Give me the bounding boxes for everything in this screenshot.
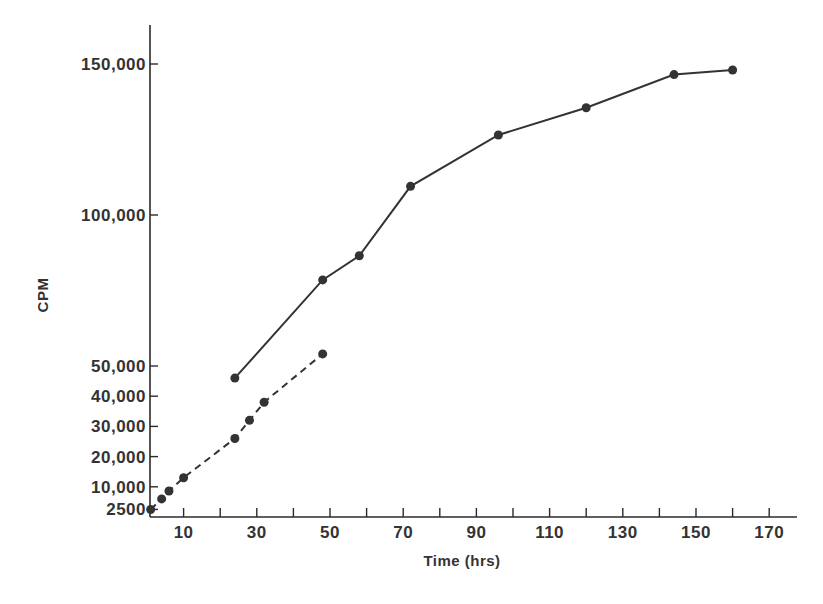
x-tick-label: 70	[393, 523, 413, 542]
data-point-marker	[318, 275, 327, 284]
x-tick-label: 30	[247, 523, 267, 542]
data-point-marker	[230, 374, 239, 383]
data-point-marker	[355, 251, 364, 260]
x-axis-title: Time (hrs)	[423, 552, 500, 569]
data-point-marker	[728, 66, 737, 75]
axes	[150, 25, 797, 517]
y-tick-label: 40,000	[91, 387, 146, 406]
y-tick-label: 20,000	[91, 448, 146, 467]
y-tick-label: 150,000	[81, 55, 146, 74]
y-tick-label: 30,000	[91, 417, 146, 436]
cpm-vs-time-chart: 1030507090110130150170 250010,00020,0003…	[0, 0, 823, 604]
data-point-marker	[318, 349, 327, 358]
data-point-marker	[179, 473, 188, 482]
data-point-marker	[494, 130, 503, 139]
data-point-marker	[157, 494, 166, 503]
data-point-marker	[582, 103, 591, 112]
y-axis-title: CPM	[34, 278, 51, 313]
x-tick-label: 50	[320, 523, 340, 542]
y-tick-label: 2500	[106, 500, 146, 519]
data-point-marker	[260, 398, 269, 407]
x-tick-label: 90	[466, 523, 486, 542]
data-series	[146, 66, 737, 514]
x-tick-label: 150	[681, 523, 711, 542]
data-point-marker	[230, 434, 239, 443]
series-solid	[230, 66, 737, 383]
y-tick-label: 50,000	[91, 357, 146, 376]
series-line-solid	[235, 70, 733, 378]
y-tick-label: 10,000	[91, 478, 146, 497]
data-point-marker	[164, 487, 173, 496]
x-axis-ticks: 1030507090110130150170	[174, 508, 784, 542]
x-tick-label: 10	[174, 523, 194, 542]
y-axis-ticks: 250010,00020,00030,00040,00050,000100,00…	[81, 55, 158, 519]
x-tick-label: 110	[535, 523, 564, 542]
x-tick-label: 130	[608, 523, 638, 542]
data-point-marker	[406, 182, 415, 191]
x-tick-label: 170	[754, 523, 784, 542]
y-tick-label: 100,000	[81, 206, 146, 225]
data-point-marker	[245, 416, 254, 425]
data-point-marker	[146, 505, 155, 514]
data-point-marker	[670, 70, 679, 79]
